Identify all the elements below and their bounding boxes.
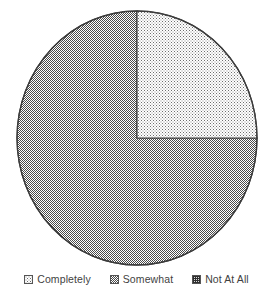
pie-chart: Completely Somewhat Not At All (0, 0, 273, 301)
legend-label-somewhat: Somewhat (123, 273, 173, 285)
legend-label-completely: Completely (37, 273, 91, 285)
legend-swatch-not-at-all-icon (192, 275, 201, 284)
pie-plot-area (0, 0, 273, 272)
pie-slice-somewhat[interactable] (137, 11, 257, 138)
chart-legend: Completely Somewhat Not At All (0, 269, 273, 289)
legend-item-somewhat[interactable]: Somewhat (110, 273, 173, 285)
legend-swatch-somewhat-icon (110, 275, 119, 284)
legend-label-not-at-all: Not At All (205, 273, 249, 285)
legend-swatch-completely-icon (24, 275, 33, 284)
legend-item-completely[interactable]: Completely (24, 273, 91, 285)
legend-item-not-at-all[interactable]: Not At All (192, 273, 249, 285)
pie-svg (0, 0, 273, 272)
